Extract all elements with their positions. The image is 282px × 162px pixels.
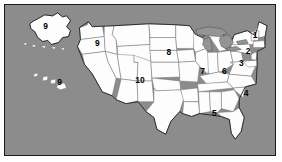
- state-mississippi: [199, 92, 211, 114]
- state-north-dakota: [149, 24, 176, 38]
- region-label-1: 1: [253, 30, 258, 40]
- state-indiana: [208, 52, 219, 74]
- state-arkansas: [181, 88, 199, 102]
- state-nebraska: [150, 50, 179, 62]
- map-frame: 1 2 3 4 5 6 7 8 9 9 9 10: [4, 4, 276, 156]
- state-oregon: [77, 37, 105, 55]
- us-map: 1 2 3 4 5 6 7 8 9 9 9 10: [5, 5, 275, 155]
- region-label-9-hawaii: 9: [57, 77, 62, 87]
- state-massachusetts-ct-ri: [253, 41, 265, 48]
- region-label-3: 3: [239, 58, 244, 68]
- region-label-5: 5: [212, 108, 217, 118]
- state-missouri: [179, 61, 200, 82]
- region-label-2: 2: [246, 46, 251, 56]
- state-kansas: [151, 62, 180, 78]
- region-label-9-alaska: 9: [43, 21, 48, 31]
- region-label-6: 6: [222, 66, 227, 76]
- state-south-dakota: [150, 38, 177, 51]
- state-iowa: [177, 49, 196, 62]
- region-label-8: 8: [166, 47, 171, 57]
- region-label-9-northwest: 9: [95, 38, 100, 48]
- region-label-7: 7: [200, 66, 205, 76]
- region-label-4: 4: [244, 88, 249, 98]
- state-montana: [112, 24, 150, 47]
- region-label-10: 10: [135, 75, 145, 85]
